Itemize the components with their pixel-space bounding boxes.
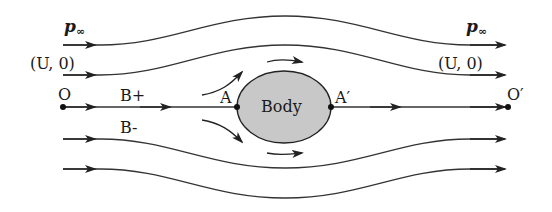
point-O (60, 104, 66, 110)
point-A (234, 104, 240, 110)
label-A: A (220, 90, 232, 106)
velocity-label-left: (U, 0) (30, 56, 75, 72)
point-A-prime (328, 104, 334, 110)
body-label: Body (261, 99, 302, 115)
streamline-bottom (63, 169, 505, 198)
pressure-label-right: p∞ (466, 18, 487, 37)
flow-under-arrow-icon (267, 153, 302, 155)
label-B-plus: B+ (120, 88, 145, 104)
label-O: O (58, 87, 71, 103)
deflect-down-arrow-icon (202, 120, 242, 142)
label-B-minus: B- (120, 120, 137, 136)
pressure-label-left: p∞ (64, 18, 85, 37)
flow-over-arrow-icon (267, 60, 302, 62)
label-O-prime: O′ (507, 87, 524, 103)
streamline-top (63, 16, 505, 45)
label-A-prime: A′ (335, 90, 350, 106)
velocity-label-right: (U, 0) (438, 56, 483, 72)
flow-diagram: p∞ (U, 0) p∞ (U, 0) O O′ A A′ B+ B- Body (0, 0, 552, 212)
point-O-prime (505, 104, 511, 110)
